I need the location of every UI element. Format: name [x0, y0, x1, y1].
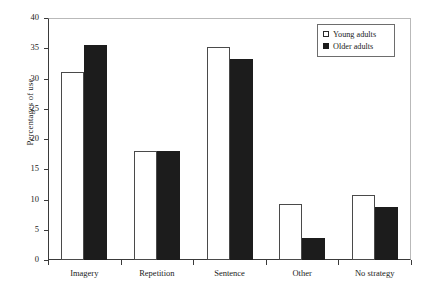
legend-item-older-adults: Older adults	[323, 40, 390, 52]
x-axis-category-label: No strategy	[325, 268, 424, 278]
y-axis-tick-mark	[44, 200, 48, 201]
open-square-icon	[323, 31, 329, 37]
y-axis-tick-label: 0	[35, 254, 39, 265]
legend-label-older-adults: Older adults	[333, 41, 373, 52]
bar-older-adults	[157, 151, 180, 260]
bar-older-adults	[375, 207, 398, 260]
legend-item-young-adults: Young adults	[323, 28, 390, 40]
x-axis-tick-mark	[411, 260, 412, 265]
y-axis-tick-mark	[44, 169, 48, 170]
y-axis-tick-mark	[44, 48, 48, 49]
bar-chart: Percentages of use 0510152025303540 Imag…	[0, 0, 424, 300]
legend: Young adults Older adults	[317, 24, 395, 57]
y-axis-tick-label: 40	[31, 12, 40, 23]
bar-older-adults	[230, 59, 253, 260]
bar-young-adults	[352, 195, 375, 260]
x-axis-tick-mark	[193, 260, 194, 265]
bar-young-adults	[207, 47, 230, 260]
filled-square-icon	[323, 43, 329, 49]
y-axis-tick-label: 35	[31, 42, 40, 53]
bar-older-adults	[302, 238, 325, 260]
y-axis-tick-label: 30	[31, 73, 40, 84]
bar-young-adults	[279, 204, 302, 260]
y-axis-tick-mark	[44, 139, 48, 140]
y-axis-tick-label: 5	[35, 224, 39, 235]
y-axis-tick-label: 15	[31, 163, 40, 174]
x-axis-tick-mark	[338, 260, 339, 265]
y-axis-tick-label: 20	[31, 133, 40, 144]
x-axis-tick-mark	[121, 260, 122, 265]
x-axis-tick-mark	[266, 260, 267, 265]
y-axis-tick-label: 10	[31, 194, 40, 205]
y-axis-tick-label: 25	[31, 103, 40, 114]
bar-older-adults	[84, 45, 107, 260]
legend-label-young-adults: Young adults	[333, 29, 376, 40]
bar-young-adults	[61, 72, 84, 260]
y-axis-tick-mark	[44, 230, 48, 231]
bar-young-adults	[134, 151, 157, 260]
y-axis-tick-mark	[44, 109, 48, 110]
x-axis-tick-mark	[48, 260, 49, 265]
y-axis-tick-mark	[44, 79, 48, 80]
y-axis-tick-mark	[44, 18, 48, 19]
